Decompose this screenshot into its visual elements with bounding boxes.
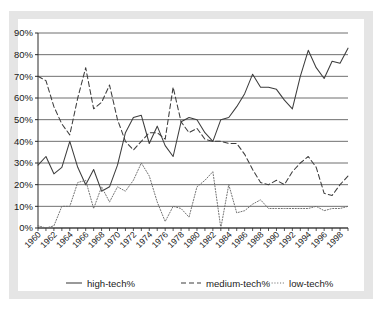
x-tick-label: 1990 <box>261 229 282 250</box>
x-tick-label: 1976 <box>149 229 170 250</box>
line-chart-figure: 0%10%20%30%40%50%60%70%80%90%19601962196… <box>0 0 382 311</box>
x-tick-label: 1994 <box>293 229 314 250</box>
y-tick-label: 30% <box>14 157 34 168</box>
legend-label-lowtech: low-tech% <box>289 278 334 289</box>
y-tick-label: 40% <box>14 136 34 147</box>
x-tick-label: 1962 <box>38 229 59 250</box>
y-tick-label: 20% <box>14 179 34 190</box>
x-tick-label: 1988 <box>245 229 266 250</box>
x-tick-label: 1974 <box>134 229 155 250</box>
chart-canvas: 0%10%20%30%40%50%60%70%80%90%19601962196… <box>0 0 382 311</box>
chart-page: 0%10%20%30%40%50%60%70%80%90%19601962196… <box>0 0 382 311</box>
x-tick-label: 1968 <box>86 229 107 250</box>
y-tick-label: 90% <box>14 27 34 38</box>
legend-label-hightech: high-tech% <box>87 278 135 289</box>
y-tick-label: 60% <box>14 92 34 103</box>
x-tick-label: 1984 <box>213 229 234 250</box>
x-tick-label: 1978 <box>165 229 186 250</box>
x-tick-label: 1996 <box>308 229 329 250</box>
x-tick-label: 1972 <box>118 229 139 250</box>
x-tick-label: 1982 <box>197 229 218 250</box>
series-line-mediumtech <box>38 68 348 196</box>
y-tick-label: 0% <box>19 222 33 233</box>
legend-label-mediumtech: medium-tech% <box>206 278 270 289</box>
y-tick-label: 80% <box>14 49 34 60</box>
x-tick-label: 1980 <box>181 229 202 250</box>
x-tick-label: 1970 <box>102 229 123 250</box>
y-tick-label: 50% <box>14 114 34 125</box>
series-line-lowtech <box>38 163 348 228</box>
x-tick-label: 1992 <box>277 229 298 250</box>
y-tick-label: 10% <box>14 201 34 212</box>
y-tick-label: 70% <box>14 71 34 82</box>
x-tick-label: 1966 <box>70 229 91 250</box>
x-tick-label: 1998 <box>324 229 345 250</box>
x-tick-label: 1964 <box>54 229 75 250</box>
x-tick-label: 1986 <box>229 229 250 250</box>
